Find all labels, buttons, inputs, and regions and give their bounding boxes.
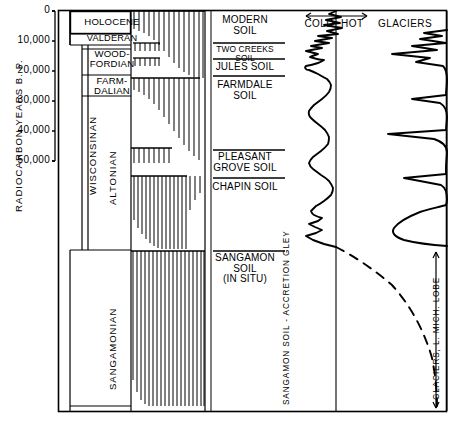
figure-vector-layer bbox=[0, 0, 455, 425]
pleasant-grove-hachure bbox=[131, 148, 172, 163]
modern-soil-hachure bbox=[131, 11, 205, 78]
stratigraphic-figure: RADIOCARBON YEARS B. P. 0 10,000 20,000 … bbox=[0, 0, 455, 425]
glacier-curve bbox=[388, 30, 447, 246]
sangamon-hachure bbox=[131, 251, 205, 406]
chapin-hachure bbox=[131, 176, 200, 249]
hachure-bands bbox=[131, 11, 205, 406]
two-creeks-hachure bbox=[133, 43, 160, 51]
soil-label-rules bbox=[213, 43, 285, 251]
y-axis bbox=[52, 11, 55, 161]
figure-frame bbox=[59, 11, 447, 412]
jules-hachure bbox=[133, 58, 160, 66]
stage-column bbox=[70, 11, 131, 411]
temperature-curve-dashed bbox=[336, 247, 437, 406]
